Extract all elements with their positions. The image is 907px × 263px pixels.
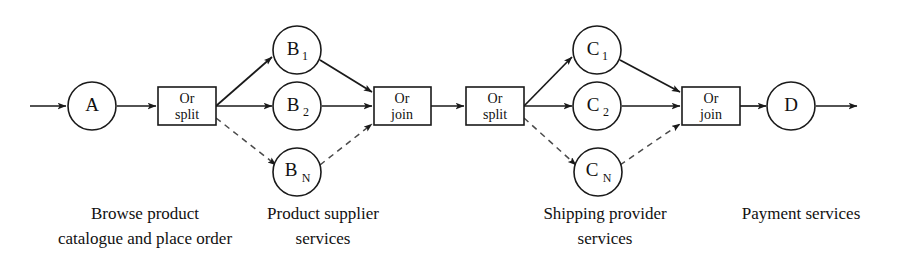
node-cn[interactable]: C N bbox=[574, 148, 622, 196]
node-c1-subscript: 1 bbox=[602, 49, 608, 63]
caption-supplier-line2: services bbox=[296, 229, 351, 248]
caption-browse-line2: catalogue and place order bbox=[58, 229, 232, 248]
edge-bn-to-or-join-1 bbox=[320, 124, 372, 165]
node-b2-label: B bbox=[287, 94, 300, 115]
edge-cn-to-or-join-2 bbox=[620, 124, 680, 165]
node-bn-subscript: N bbox=[302, 171, 311, 185]
caption-shipping-line2: services bbox=[578, 229, 633, 248]
node-d-label: D bbox=[784, 94, 798, 115]
node-cn-label: C bbox=[586, 159, 599, 180]
diagram-canvas: A Or split B 1 B 2 B N Or bbox=[0, 0, 907, 263]
gate-or-join-2-line2: join bbox=[699, 107, 722, 122]
gate-or-join-2[interactable]: Or join bbox=[682, 87, 740, 125]
node-a-label: A bbox=[85, 94, 99, 115]
node-c2-label: C bbox=[587, 94, 600, 115]
caption-browse-line1: Browse product bbox=[91, 204, 199, 223]
gate-or-split-2[interactable]: Or split bbox=[466, 87, 524, 125]
node-c2-subscript: 2 bbox=[603, 105, 609, 119]
caption-shipping: Shipping provider services bbox=[543, 204, 667, 248]
caption-payment-line1: Payment services bbox=[742, 204, 861, 223]
node-d[interactable]: D bbox=[767, 82, 815, 130]
caption-supplier: Product supplier services bbox=[267, 204, 379, 248]
node-b1[interactable]: B 1 bbox=[273, 26, 321, 74]
gate-or-split-2-line2: split bbox=[483, 107, 507, 122]
edge-c1-to-or-join-2 bbox=[620, 60, 680, 92]
edge-b1-to-or-join-1 bbox=[320, 60, 372, 92]
gate-or-split-1[interactable]: Or split bbox=[158, 87, 216, 125]
gate-or-split-2-line1: Or bbox=[488, 91, 503, 106]
caption-payment: Payment services bbox=[742, 204, 861, 223]
edge-or-split-2-to-cn bbox=[524, 118, 576, 165]
node-bn[interactable]: B N bbox=[273, 148, 321, 196]
node-c2[interactable]: C 2 bbox=[573, 82, 621, 130]
node-b2[interactable]: B 2 bbox=[273, 82, 321, 130]
gate-or-split-1-line1: Or bbox=[180, 91, 195, 106]
workflow-diagram: A Or split B 1 B 2 B N Or bbox=[0, 0, 907, 263]
gate-or-join-2-line1: Or bbox=[704, 91, 719, 106]
node-c1[interactable]: C 1 bbox=[573, 26, 621, 74]
node-b1-label: B bbox=[287, 38, 300, 59]
caption-shipping-line1: Shipping provider bbox=[543, 204, 667, 223]
node-b1-subscript: 1 bbox=[302, 49, 308, 63]
gate-or-split-1-line2: split bbox=[175, 107, 199, 122]
node-c1-label: C bbox=[587, 38, 600, 59]
node-cn-subscript: N bbox=[603, 171, 612, 185]
gate-or-join-1-line1: Or bbox=[395, 91, 410, 106]
node-bn-label: B bbox=[285, 159, 298, 180]
edge-or-split-1-to-b1 bbox=[216, 57, 272, 106]
node-a[interactable]: A bbox=[68, 82, 116, 130]
gate-or-join-1-line2: join bbox=[390, 107, 413, 122]
caption-supplier-line1: Product supplier bbox=[267, 204, 379, 223]
node-b2-subscript: 2 bbox=[303, 105, 309, 119]
caption-browse: Browse product catalogue and place order bbox=[58, 204, 232, 248]
edge-or-split-2-to-c1 bbox=[524, 57, 572, 106]
edge-or-split-1-to-bn bbox=[216, 118, 276, 165]
gate-or-join-1[interactable]: Or join bbox=[374, 87, 431, 125]
